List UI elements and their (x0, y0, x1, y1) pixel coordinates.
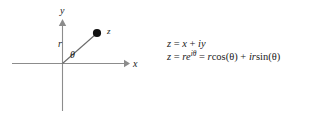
point-z-label: z (107, 27, 111, 36)
y-axis-arrowhead (59, 19, 66, 26)
eq2-exp-base: re (182, 51, 190, 62)
theta-angle-label: θ (70, 50, 75, 60)
eq1-imaginary-part: iy (198, 38, 206, 49)
x-axis-arrowhead (124, 60, 130, 67)
eq2-sin-term: sin(θ) (256, 51, 280, 62)
y-axis-label: y (60, 6, 64, 16)
x-axis-label: x (133, 59, 137, 69)
figure-container: y x z r θ z = x + iy z = reiθ = rcos(θ) … (0, 0, 315, 136)
radius-label: r (58, 39, 62, 49)
eq2-sin-coefficient: ir (249, 51, 256, 62)
equation-line-1: z = x + iy (167, 37, 280, 50)
complex-plane-svg (0, 0, 315, 136)
radius-ray (63, 35, 96, 64)
eq2-cos-term: cos(θ) (212, 51, 238, 62)
equation-line-2: z = reiθ = rcos(θ) + irsin(θ) (167, 50, 280, 63)
point-z-marker (93, 29, 101, 37)
equation-block: z = x + iy z = reiθ = rcos(θ) + irsin(θ) (167, 37, 280, 63)
